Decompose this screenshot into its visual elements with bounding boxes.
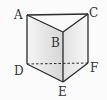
label-A: A [13, 8, 23, 22]
label-D: D [14, 64, 24, 78]
prism-diagram: A C B D F E [0, 0, 107, 100]
label-C: C [89, 6, 98, 20]
label-B: B [51, 36, 60, 50]
label-E: E [58, 85, 67, 99]
label-F: F [90, 61, 98, 75]
